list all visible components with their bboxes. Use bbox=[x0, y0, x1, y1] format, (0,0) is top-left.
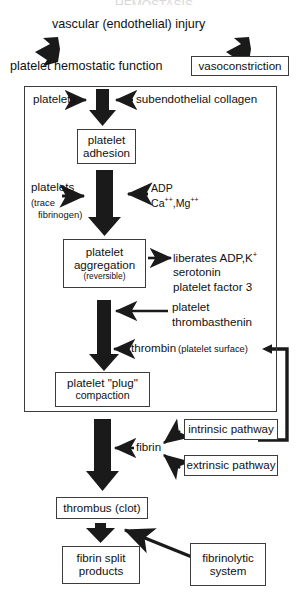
arrow-intrinsic-to-fibrin bbox=[164, 431, 180, 443]
platelets-input-2-label: platelets bbox=[31, 181, 74, 193]
platelet-aggregation-line1: platelet bbox=[86, 246, 123, 259]
platelet-aggregation-line3: (reversible) bbox=[84, 272, 126, 281]
liberates-line3: platelet factor 3 bbox=[173, 281, 252, 293]
intrinsic-pathway-box: intrinsic pathway bbox=[184, 419, 278, 440]
fibrin-split-products-box: fibrin split products bbox=[62, 546, 140, 584]
cut-off-title: HEMOSTASIS bbox=[0, 0, 308, 5]
diagram-canvas: HEMOSTASIS bbox=[0, 0, 308, 604]
liberates-line1: liberates ADP,K+ bbox=[173, 251, 257, 264]
ca-symbol: Ca bbox=[151, 197, 165, 209]
mg-symbol: ,Mg bbox=[173, 197, 191, 209]
platelet-adhesion-box: platelet adhesion bbox=[77, 129, 136, 164]
trace-note-line2: fibrinogen) bbox=[38, 210, 82, 220]
extrinsic-pathway-box: extrinsic pathway bbox=[184, 455, 278, 476]
vasoconstriction-label: vasoconstriction bbox=[198, 60, 281, 73]
platelet-hemostatic-function-label: platelet hemostatic function bbox=[10, 60, 163, 73]
thrombasthenin-line2: thrombasthenin bbox=[172, 316, 252, 328]
platelet-adhesion-line1: platelet bbox=[88, 134, 125, 147]
k-charge: + bbox=[253, 250, 257, 259]
extrinsic-pathway-label: extrinsic pathway bbox=[187, 459, 276, 472]
vasoconstriction-box: vasoconstriction bbox=[191, 56, 289, 76]
subendothelial-collagen-label: subendothelial collagen bbox=[136, 93, 257, 105]
ca-charge: ++ bbox=[165, 196, 173, 203]
fibrinolytic-line2: system bbox=[210, 565, 247, 578]
arrow-thrombus-to-fsp bbox=[86, 523, 115, 543]
block-arrow-fibrin-to-thrombus bbox=[86, 419, 119, 491]
injury-label: vascular (endothelial) injury bbox=[52, 18, 205, 31]
thrombus-clot-box: thrombus (clot) bbox=[56, 497, 148, 519]
thrombin-label: thrombin(platelet surface) bbox=[131, 342, 248, 354]
intrinsic-pathway-label: intrinsic pathway bbox=[188, 423, 274, 436]
mg-charge: ++ bbox=[190, 196, 198, 203]
fibrinolytic-system-box: fibrinolytic system bbox=[190, 543, 266, 586]
plug-line2: compaction bbox=[75, 390, 129, 402]
trace-note-line1: (trace bbox=[31, 198, 55, 208]
platelet-aggregation-box: platelet aggregation (reversible) bbox=[63, 239, 146, 288]
liberates-line2: serotonin bbox=[173, 266, 221, 278]
platelet-adhesion-line2: adhesion bbox=[83, 147, 130, 160]
platelet-phase-container bbox=[24, 86, 277, 412]
fibrin-label: fibrin bbox=[136, 441, 161, 453]
thrombin-text: thrombin bbox=[131, 341, 176, 354]
platelet-aggregation-line2: aggregation bbox=[74, 259, 135, 272]
thrombus-clot-label: thrombus (clot) bbox=[63, 502, 140, 515]
platelets-input-1-label: platelets bbox=[33, 93, 76, 105]
fsp-line2: products bbox=[79, 565, 123, 578]
adp-label: ADP bbox=[151, 183, 173, 194]
ca-mg-label: Ca++,Mg++ bbox=[151, 196, 199, 209]
arrow-extrinsic-to-fibrin bbox=[164, 455, 180, 468]
platelet-plug-compaction-box: platelet "plug" compaction bbox=[55, 372, 150, 407]
liberates-text: liberates ADP,K bbox=[173, 251, 253, 264]
fibrinolytic-line1: fibrinolytic bbox=[202, 552, 254, 565]
thrombasthenin-line1: platelet bbox=[172, 301, 209, 313]
thrombin-paren: (platelet surface) bbox=[178, 343, 248, 354]
